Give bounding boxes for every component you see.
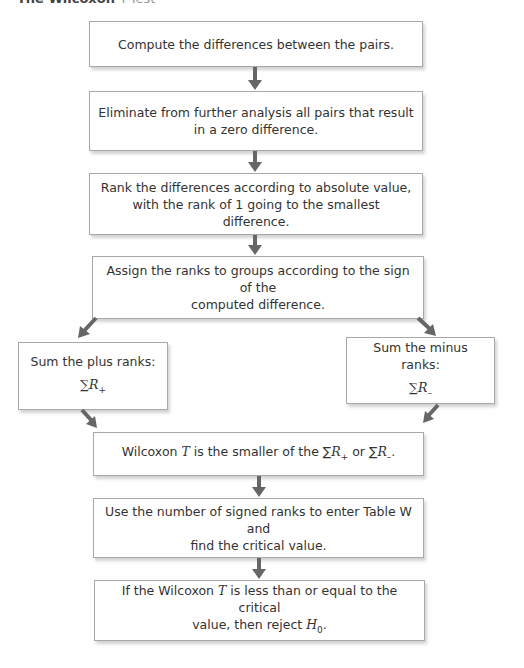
sum-minus-formula: ∑R– — [409, 379, 432, 402]
branch-label: Sum the minus ranks: — [355, 339, 486, 373]
step-decision: If the Wilcoxon T is less than or equal … — [94, 580, 425, 641]
header-title-bold: The Wilcoxon — [17, 0, 115, 6]
arrow-down-icon — [248, 151, 262, 173]
step-text-line1: Eliminate from further analysis all pair… — [98, 104, 413, 121]
step-rank-differences: Rank the differences according to absolu… — [89, 173, 423, 235]
step-compute-differences: Compute the differences between the pair… — [89, 21, 423, 67]
result-text: Wilcoxon T is the smaller of the ∑R+ or … — [122, 443, 396, 466]
step-eliminate-zero: Eliminate from further analysis all pair… — [89, 91, 423, 151]
step-text-line1: Assign the ranks to groups according to … — [101, 262, 415, 296]
arrow-down-right-icon — [80, 408, 100, 430]
step-text-line1: Use the number of signed ranks to enter … — [102, 503, 415, 537]
branch-sum-minus-ranks: Sum the minus ranks: ∑R– — [346, 337, 495, 404]
header-title-rest: T-Test — [119, 0, 155, 6]
step-text-line1: Rank the differences according to absolu… — [101, 179, 412, 196]
step-wilcoxon-t: Wilcoxon T is the smaller of the ∑R+ or … — [93, 432, 424, 476]
step-text-line2: in a zero difference. — [194, 121, 318, 138]
arrow-down-icon — [248, 67, 262, 91]
step-text-line2: find the critical value. — [190, 537, 326, 554]
step-text-line2: computed difference. — [191, 296, 325, 313]
arrow-down-icon — [248, 235, 262, 256]
step-text-line2: with the rank of 1 going to the smallest… — [98, 196, 414, 230]
branch-sum-plus-ranks: Sum the plus ranks: ∑R+ — [18, 342, 168, 410]
section-header: The Wilcoxon T-Test — [17, 0, 155, 6]
branch-label: Sum the plus ranks: — [31, 353, 156, 370]
step-table-lookup: Use the number of signed ranks to enter … — [93, 498, 424, 558]
step-text: Compute the differences between the pair… — [118, 36, 394, 53]
step-text-line2: value, then reject H0. — [192, 616, 327, 639]
arrow-down-icon — [252, 558, 266, 580]
arrow-down-right-icon — [416, 316, 438, 338]
arrow-down-icon — [252, 476, 266, 498]
step-text-line1: If the Wilcoxon T is less than or equal … — [103, 582, 416, 616]
step-assign-ranks: Assign the ranks to groups according to … — [92, 256, 424, 319]
sum-plus-formula: ∑R+ — [80, 376, 106, 399]
arrow-down-left-icon — [420, 403, 440, 425]
arrow-down-left-icon — [76, 316, 98, 340]
